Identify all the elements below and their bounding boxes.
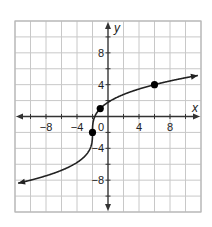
data-point (97, 105, 104, 112)
x-tick-label: 4 (136, 121, 142, 133)
y-tick-label: 8 (98, 47, 104, 59)
y-axis-arrow-down-icon (105, 204, 111, 211)
curve-arrow-right-icon (190, 74, 197, 80)
y-axis-arrow-up-icon (105, 22, 111, 29)
x-axis-arrow-left-icon (16, 114, 23, 120)
y-axis-label: y (113, 21, 121, 35)
x-tick-label: −4 (71, 121, 84, 133)
axes (16, 22, 200, 211)
y-tick-label: −8 (91, 174, 104, 186)
y-tick-label: 4 (98, 79, 104, 91)
coordinate-plane: −8−404884−4−8 x y (0, 0, 212, 227)
x-tick-label: 0 (98, 121, 104, 133)
data-point (151, 81, 158, 88)
data-point (89, 129, 96, 136)
graph: −8−404884−4−8 x y (0, 0, 212, 227)
x-axis-label: x (191, 101, 199, 115)
x-tick-label: 8 (167, 121, 173, 133)
x-tick-label: −8 (40, 121, 53, 133)
y-tick-label: −4 (91, 142, 104, 154)
